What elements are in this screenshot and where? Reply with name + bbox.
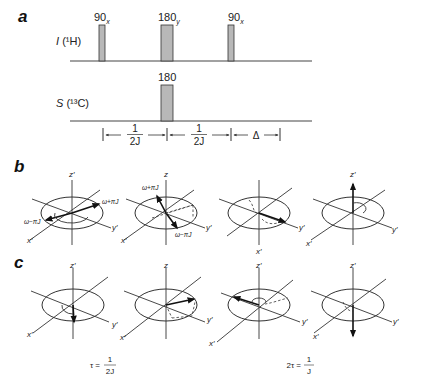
vector-frame-c3: z′ y′ x′ (208, 261, 308, 348)
vector-frame-b2: z y′ x′ ω+πJ ω−πJ (120, 170, 212, 245)
pulse-180-s (161, 85, 173, 121)
svg-text:1: 1 (307, 355, 312, 364)
annotation-omega-minus: ω−πJ (24, 218, 41, 225)
vector-frame-c4: z′ y′ x′ (311, 261, 399, 341)
axis-label-z: z′ (68, 170, 75, 179)
timing-2-den: 2J (194, 136, 205, 147)
axis-label-x: x′ (255, 247, 262, 256)
panel-b: b z′ y′ x′ ω+πJ ω−πJ z y′ x′ (14, 157, 398, 256)
pulse-label-180y: 180y (158, 11, 180, 26)
axis-label-y: y′ (391, 225, 398, 234)
svg-text:2τ =: 2τ = (286, 361, 301, 370)
axis-label-z: z (163, 170, 168, 179)
time-label-2: 2τ = 1 J (286, 355, 314, 376)
axis-label-x: x′ (26, 330, 33, 339)
channel-label-s: S (¹³C) (56, 97, 89, 109)
svg-text:2J: 2J (106, 367, 114, 376)
axis-label-y: y′ (206, 315, 213, 324)
panel-c: c z′ y′ x′ z y′ x′ (14, 253, 399, 376)
axis-label-x: x′ (312, 332, 319, 341)
panel-label-c: c (14, 253, 24, 272)
axis-label-x: x′ (119, 333, 126, 342)
svg-text:τ =: τ = (90, 361, 100, 370)
pulse-label-90x-1: 90x (94, 11, 110, 25)
pulse-90x-1 (99, 25, 105, 61)
axis-label-z: z (163, 261, 168, 270)
pulse-180y (161, 25, 173, 61)
nmr-figure: a I (¹H) 90x 180y 90x S (¹³C) 180 1 (0, 0, 426, 384)
annotation-omega-minus: ω−πJ (175, 231, 192, 238)
vector-frame-b4: z′ y′ x′ (305, 170, 398, 248)
axis-label-y: y′ (111, 223, 118, 232)
svg-text:1: 1 (108, 355, 113, 364)
annotation-omega-plus: ω+πJ (142, 184, 159, 191)
axis-label-z: z′ (69, 261, 76, 270)
axis-label-z: z′ (255, 261, 262, 270)
timing-1-den: 2J (130, 136, 141, 147)
axis-label-z: z′ (349, 170, 356, 179)
vector-frame-c2: z y′ x′ (119, 261, 213, 342)
vector-icon (166, 299, 194, 305)
annotation-omega-plus: ω+πJ (102, 198, 119, 205)
axis-label-x: x′ (208, 339, 215, 348)
vector-frame-c1: z′ y′ x′ (26, 261, 118, 339)
axis-label-y: y′ (392, 317, 399, 326)
axis-label-x: x′ (305, 239, 312, 248)
vector-frame-b3: y′ x′ (219, 180, 305, 256)
svg-text:J: J (307, 367, 311, 376)
axis-label-x: x′ (120, 236, 127, 245)
axis-label-y: y′ (205, 223, 212, 232)
axis-label-y: y′ (298, 223, 305, 232)
axis-label-y: y′ (301, 317, 308, 326)
pulse-90x-2 (228, 25, 234, 61)
timing-1-num: 1 (132, 123, 138, 134)
time-label-1: τ = 1 2J (90, 355, 116, 376)
vector-frame-b1: z′ y′ x′ ω+πJ ω−πJ (24, 170, 119, 245)
panel-a: a I (¹H) 90x 180y 90x S (¹³C) 180 1 (18, 7, 312, 147)
axis-label-x: x′ (26, 236, 33, 245)
channel-label-i: I (¹H) (56, 35, 81, 47)
vector-along-y-icon (259, 213, 285, 222)
axis-label-y: y′ (111, 320, 118, 329)
panel-label-a: a (18, 7, 27, 26)
vector-fast-icon (72, 204, 99, 213)
axis-label-z: z′ (349, 261, 356, 270)
panel-label-b: b (14, 157, 24, 176)
timing-bar: 1 2J 1 2J Δ (103, 123, 280, 147)
timing-delta: Δ (253, 130, 260, 141)
pulse-label-90x-2: 90x (228, 11, 244, 25)
timing-2-num: 1 (196, 123, 202, 134)
pulse-label-180-s: 180 (158, 71, 176, 83)
vector-icon (73, 305, 74, 322)
